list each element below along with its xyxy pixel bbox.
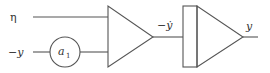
block-diagram: η −y a 1 −ẏ y bbox=[0, 0, 270, 73]
input-neg-y-label: −y bbox=[8, 46, 24, 59]
gain-subscript: 1 bbox=[66, 52, 70, 60]
integrator-rect bbox=[183, 6, 197, 67]
integrator-triangle bbox=[197, 6, 243, 67]
input-eta-label: η bbox=[10, 11, 17, 24]
gain-label: a bbox=[58, 45, 65, 58]
neg-ydot-label: −ẏ bbox=[157, 19, 173, 32]
gain-circle bbox=[50, 37, 80, 67]
output-y-label: y bbox=[245, 20, 253, 33]
integrator-block bbox=[183, 6, 243, 67]
gain-block-a1: a 1 bbox=[50, 37, 80, 67]
summing-amplifier-triangle bbox=[108, 6, 153, 67]
